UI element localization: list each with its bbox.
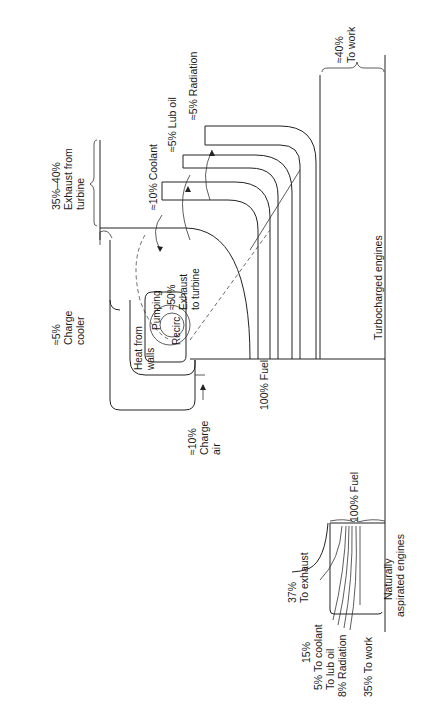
turbo-work-label-1: ≈40% (333, 36, 345, 63)
turbo-luboil-label: ≈5% Lub oil (166, 97, 178, 152)
turbo-exhaust-to-turbine-3: to turbine (190, 268, 201, 310)
na-luboil-label: To lub oil (324, 649, 336, 690)
turbo-charge-air-3: air (210, 443, 222, 455)
na-exhaust-curve-2 (320, 526, 342, 580)
na-exhaust-label-1: 37% (286, 582, 298, 603)
turbo-luboil-arrow (183, 175, 191, 240)
turbo-exhaust-from-turbine-1: 35%–40% (50, 162, 62, 210)
turbo-radiation-arrow (205, 150, 212, 200)
turbo-title: Turbocharged engines (372, 235, 384, 340)
turbo-luboil-band-outer (183, 155, 292, 359)
turbo-exhaust-from-turbine-2: Exhaust from (62, 148, 74, 210)
na-title-1: Naturally (382, 558, 394, 600)
turbo-coolant-arrow (155, 215, 162, 250)
turbo-charge-air-2: Charge (198, 420, 210, 455)
turbo-recirc-label: Recirc (171, 317, 182, 345)
turbo-radiation-label: ≈5% Radiation (187, 52, 199, 120)
turbo-heat-walls-2: walls (145, 348, 156, 371)
arrowhead-icon (185, 186, 191, 192)
turbo-exhaust-from-turbine-3: turbine (74, 178, 86, 210)
turbo-charge-cooler-3: cooler (74, 316, 86, 345)
turbo-radiation-band-inner (205, 145, 300, 359)
na-work-label: 35% To work (362, 636, 374, 697)
na-labels: Naturally aspirated engines 100% Fuel 37… (286, 472, 406, 697)
na-exhaust-label-2: To exhaust (298, 552, 310, 603)
energy-flow-diagram: Turbocharged engines 100% Fuel ≈40% To w… (0, 0, 425, 705)
turbo-coolant-label: ≈10% Coolant (147, 144, 159, 210)
na-coolant-curve-1 (333, 526, 346, 620)
turbo-luboil-band-inner (183, 168, 278, 359)
turbo-exhaust-to-turbine-2: Exhaust (178, 274, 189, 310)
turbo-fuel-label: 100% Fuel (258, 360, 270, 410)
arrowhead-icon (200, 384, 206, 390)
turbo-charge-cooler-1: ≈5% (50, 324, 62, 345)
turbo-exhaust-to-turbine-1: ≈50% (166, 284, 177, 310)
turbo-work-label-2: To work (345, 26, 357, 63)
turbo-charge-cooler-2: Charge (62, 310, 74, 345)
na-title-2: aspirated engines (394, 534, 406, 617)
arrowhead-icon (157, 246, 163, 252)
arrowhead-icon (209, 150, 215, 156)
turbo-heat-walls-1: Heat from (133, 326, 144, 370)
na-radiation-label: 8% Radiation (336, 634, 348, 697)
turbo-charge-cooler-line (110, 240, 120, 310)
turbo-charge-air-1: ≈10% (186, 428, 198, 455)
na-fuel-label: 100% Fuel (348, 472, 360, 522)
na-coolant-label-1: 15% (300, 642, 312, 663)
turbo-exhaust-brace (90, 140, 97, 226)
turbo-pumping-label: Pumping (151, 291, 162, 330)
na-coolant-label-2: 5% To coolant (312, 624, 324, 690)
